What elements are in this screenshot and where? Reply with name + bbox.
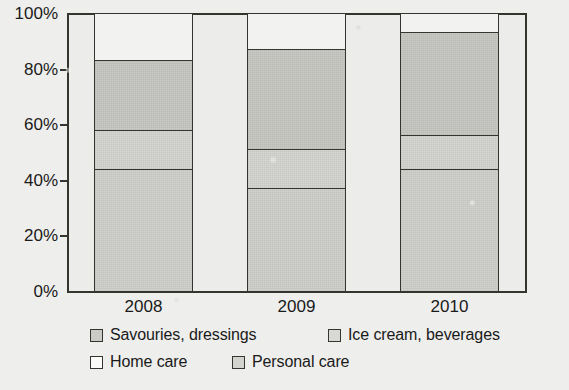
y-tick-label-60: 60% xyxy=(24,116,58,133)
bar-segment-2010-ice-cream-beverages xyxy=(400,135,499,170)
bar-stack-2010 xyxy=(400,14,499,292)
bar-segment-2010-savouries-dressings xyxy=(400,32,499,136)
legend-row-1: Savouries, dressingsIce cream, beverages xyxy=(0,326,569,353)
legend-personal-care[interactable]: Personal care xyxy=(232,353,349,371)
x-tick-label-2008: 2008 xyxy=(94,297,193,317)
legend-label: Home care xyxy=(110,353,187,371)
bar-segment-2008-home-care xyxy=(94,13,193,62)
y-tick-label-20: 20% xyxy=(24,227,58,244)
legend-label: Personal care xyxy=(252,353,349,371)
legend-label: Ice cream, beverages xyxy=(348,326,500,344)
y-tick-mark-20 xyxy=(60,235,67,237)
y-tick-mark-80 xyxy=(60,69,67,71)
stacked-bar-chart: 0%20%40%60%80%100% Savouries, dressingsI… xyxy=(0,0,569,390)
y-tick-label-100: 100% xyxy=(15,5,58,22)
legend-swatch-icon xyxy=(90,356,103,369)
legend-savouries-dressings[interactable]: Savouries, dressings xyxy=(90,326,257,344)
bar-segment-2009-ice-cream-beverages xyxy=(247,149,346,189)
legend-home-care[interactable]: Home care xyxy=(90,353,187,371)
bar-stack-2009 xyxy=(247,14,346,292)
x-tick-label-2009: 2009 xyxy=(247,297,346,317)
y-tick-mark-40 xyxy=(60,180,67,182)
legend-swatch-icon xyxy=(90,329,103,342)
y-tick-label-40: 40% xyxy=(24,172,58,189)
bar-segment-2008-savouries-dressings xyxy=(94,60,193,131)
y-tick-label-80: 80% xyxy=(24,61,58,78)
legend-ice-cream-beverages[interactable]: Ice cream, beverages xyxy=(328,326,500,344)
bar-group-2010 xyxy=(373,13,526,293)
bar-segment-2009-personal-care xyxy=(247,188,346,292)
bar-stack-2008 xyxy=(94,14,193,292)
chart-legend: Savouries, dressingsIce cream, beverages… xyxy=(0,326,569,380)
bar-segment-2009-home-care xyxy=(247,13,346,51)
bar-group-2009 xyxy=(220,13,373,293)
legend-label: Savouries, dressings xyxy=(110,326,257,344)
bar-segment-2008-personal-care xyxy=(94,168,193,292)
cropped-title-remnant xyxy=(70,0,370,5)
bar-segment-2009-savouries-dressings xyxy=(247,49,346,151)
legend-swatch-icon xyxy=(328,329,341,342)
bar-segment-2008-ice-cream-beverages xyxy=(94,129,193,169)
bar-segment-2010-personal-care xyxy=(400,168,499,292)
x-tick-label-2010: 2010 xyxy=(400,297,499,317)
bar-segment-2010-home-care xyxy=(400,13,499,34)
legend-row-2: Home carePersonal care xyxy=(0,353,569,380)
bar-group-2008 xyxy=(67,13,220,293)
y-tick-mark-60 xyxy=(60,124,67,126)
legend-swatch-icon xyxy=(232,356,245,369)
y-tick-label-0: 0% xyxy=(33,283,58,300)
